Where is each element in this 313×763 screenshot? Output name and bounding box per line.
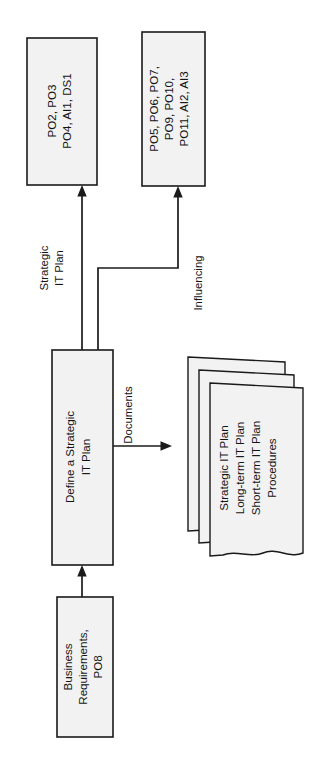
- edge-label-strategic-line-1: Strategic: [38, 245, 50, 290]
- edge-label-strategic-line-2: IT Plan: [53, 250, 65, 286]
- inputs-box-line-2: Requirements,: [76, 629, 89, 704]
- edge-label-influencing: Influencing: [192, 255, 204, 310]
- arrowhead-to-outputs-1: [77, 185, 86, 197]
- process-box-line-2: IT Plan: [79, 439, 92, 476]
- document-line-4: Procedures: [265, 438, 278, 497]
- inputs-box-line-3: PO8: [91, 655, 104, 678]
- outputs-box-2-line-3: PO11, AI2, AI3: [177, 71, 190, 146]
- process-box-line-1: Define a Strategic: [63, 411, 76, 503]
- connector-line-branch-right: [98, 194, 178, 350]
- edge-label-strategic-it-plan: Strategic IT Plan: [38, 245, 65, 290]
- connector-process-to-outputs-1: [77, 185, 86, 350]
- outputs-box-2-label: PO5, PO6, PO7, PO9, PO10, PO11, AI2, AI3: [147, 66, 190, 152]
- arrowhead-to-documents: [161, 441, 173, 450]
- edge-label-influencing-text: Influencing: [192, 255, 204, 310]
- edge-label-documents-text: Documents: [122, 386, 134, 444]
- outputs-box-1-line-2: PO4, AI1, DS1: [60, 73, 73, 148]
- connector-inputs-to-process: [77, 565, 86, 597]
- diagram-canvas: PO2, PO3 PO4, AI1, DS1 PO5, PO6, PO7, PO…: [0, 0, 313, 763]
- connector-process-to-outputs-2: [98, 186, 183, 350]
- edge-label-documents: Documents: [122, 386, 134, 444]
- arrowhead-to-outputs-2: [173, 186, 182, 198]
- inputs-box-line-1: Business: [61, 643, 74, 690]
- document-line-3: Short-term IT Plan: [249, 421, 262, 516]
- arrowhead-to-process: [77, 565, 86, 577]
- outputs-box-1-line-1: PO2, PO3: [45, 85, 58, 138]
- process-flow-diagram: PO2, PO3 PO4, AI1, DS1 PO5, PO6, PO7, PO…: [0, 0, 313, 763]
- document-line-2: Long-term IT Plan: [233, 422, 246, 515]
- outputs-box-2-line-1: PO5, PO6, PO7,: [147, 66, 160, 152]
- document-line-1: Strategic IT Plan: [217, 425, 230, 511]
- outputs-box-2-line-2: PO9, PO10,: [162, 78, 175, 141]
